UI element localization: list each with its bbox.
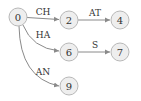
edge-0-6: HA bbox=[23, 25, 59, 51]
trie-diagram: CH AT HA S AN 0 2 4 6 7 9 bbox=[0, 0, 141, 101]
edge-label-ch: CH bbox=[36, 7, 51, 17]
node-9: 9 bbox=[60, 77, 78, 95]
svg-text:4: 4 bbox=[117, 15, 123, 26]
svg-text:0: 0 bbox=[15, 12, 21, 23]
edge-2-4: AT bbox=[78, 8, 110, 20]
svg-text:7: 7 bbox=[117, 47, 123, 58]
edge-label-an: AN bbox=[35, 67, 50, 77]
svg-text:6: 6 bbox=[66, 47, 72, 58]
edge-6-7: S bbox=[78, 40, 110, 52]
edge-label-at: AT bbox=[88, 8, 101, 18]
node-2: 2 bbox=[60, 11, 78, 29]
svg-text:2: 2 bbox=[66, 15, 72, 26]
svg-text:9: 9 bbox=[66, 81, 72, 92]
node-0: 0 bbox=[9, 8, 27, 26]
node-4: 4 bbox=[111, 11, 129, 29]
edge-0-2: CH bbox=[27, 7, 59, 20]
node-7: 7 bbox=[111, 43, 129, 61]
edge-label-s: S bbox=[92, 40, 98, 50]
edge-label-ha: HA bbox=[36, 30, 51, 40]
node-6: 6 bbox=[60, 43, 78, 61]
